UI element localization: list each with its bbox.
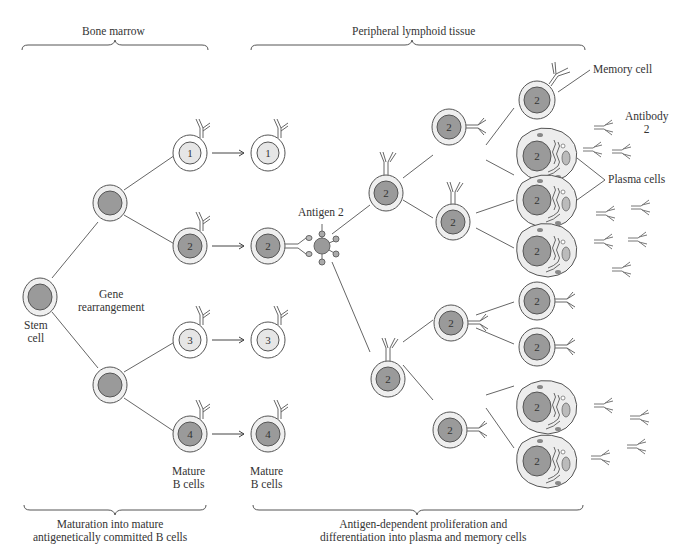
clone-b-cell: 2 [436,182,470,240]
clone-b-cell: 2 [434,305,488,341]
activated-b-cell: 2 [369,152,403,211]
svg-text:2: 2 [534,245,540,257]
proliferation-brace [253,505,583,515]
plasma-cell: 2 [517,435,577,488]
activated-b-cell: 2 [371,338,405,397]
mature-b-cells-label-bm: Mature B cells [172,465,205,491]
antibody-label: Antibody 2 [625,110,668,136]
svg-text:2: 2 [265,240,271,252]
svg-text:2: 2 [534,295,540,307]
svg-text:3: 3 [187,334,193,346]
stem-cell-label-line2: cell [24,332,48,345]
maturation-caption-line1: Maturation into mature [33,518,187,531]
precursor-cell [93,367,127,403]
mature-b-cells-label-periph: Mature B cells [250,465,283,491]
clone-b-cell: 2 [432,109,486,145]
b-cell-development-diagram: 1 2 3 4 1 2 3 [0,0,687,546]
svg-text:2: 2 [534,194,540,206]
svg-text:4: 4 [187,428,193,440]
plasma-cell: 2 [517,175,577,228]
gene-label-line2: rearrangement [78,301,144,314]
periph-b-cell-2-binding: 2 [251,228,312,264]
svg-text:2: 2 [534,341,540,353]
bone-marrow-brace [22,40,208,50]
bm-b-cell-1: 1 [173,119,210,171]
proliferation-caption-line2: differentiation into plasma and memory c… [320,531,526,544]
stem-cell-label: Stem cell [24,319,48,345]
mature-bm-line1: Mature [172,465,205,478]
svg-text:2: 2 [534,94,540,106]
svg-text:2: 2 [450,216,456,228]
svg-text:2: 2 [534,150,540,162]
svg-text:2: 2 [187,240,193,252]
antibody-label-line1: Antibody [625,110,668,123]
memory-cell-label: Memory cell [593,63,652,76]
svg-text:2: 2 [383,187,389,199]
periph-b-cell-1: 1 [251,119,288,171]
memory-cell: 2 [519,62,570,119]
proliferation-caption: Antigen-dependent proliferation and diff… [320,518,526,544]
svg-text:2: 2 [448,317,454,329]
memory-cell: 2 [519,328,575,366]
bm-b-cell-3: 3 [173,306,210,358]
svg-text:2: 2 [446,121,452,133]
maturation-caption-line2: antigenetically committed B cells [33,531,187,544]
mature-periph-line1: Mature [250,465,283,478]
maturation-arrows [212,150,244,437]
plasma-cells-label: Plasma cells [608,173,665,186]
peripheral-brace [251,40,585,50]
maturation-brace [24,505,206,515]
gene-rearrangement-label: Gene rearrangement [78,288,144,314]
mature-bm-line2: B cells [172,478,205,491]
bone-marrow-label: Bone marrow [82,25,145,38]
memory-cell: 2 [519,282,575,320]
antigen-label: Antigen 2 [298,206,344,219]
bm-b-cell-4: 4 [173,400,210,452]
svg-text:2: 2 [447,424,453,436]
periph-b-cell-4: 4 [251,400,288,452]
periph-b-cell-3: 3 [251,306,288,358]
precursor-cell [93,185,127,221]
maturation-caption: Maturation into mature antigenetically c… [33,518,187,544]
svg-text:2: 2 [385,373,391,385]
stem-cell-label-line1: Stem [24,319,48,332]
svg-text:1: 1 [265,147,271,159]
gene-label-line1: Gene [78,288,144,301]
antibody-label-line2: 2 [625,123,668,136]
clone-b-cell: 2 [433,412,487,448]
peripheral-tissue-label: Peripheral lymphoid tissue [352,25,475,38]
svg-text:4: 4 [265,428,271,440]
svg-text:2: 2 [534,401,540,413]
plasma-cell: 2 [517,128,577,182]
svg-text:1: 1 [187,147,193,159]
plasma-cell: 2 [517,223,577,277]
plasma-cell: 2 [517,380,577,434]
stem-cell [23,278,57,316]
antigen-2 [314,224,339,265]
mature-periph-line2: B cells [250,478,283,491]
svg-text:2: 2 [534,455,540,467]
svg-text:3: 3 [265,334,271,346]
proliferation-caption-line1: Antigen-dependent proliferation and [320,518,526,531]
bm-b-cell-2: 2 [173,212,210,264]
free-antibodies [583,120,650,465]
